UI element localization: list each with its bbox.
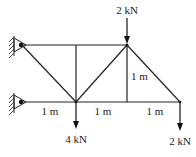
load-arrow-top: 2 kN <box>116 4 138 44</box>
load-label-mid: 4 kN <box>65 133 87 145</box>
truss-members <box>22 44 181 104</box>
dimension-label-2: 1 m <box>95 105 112 117</box>
bottom-pin-support <box>9 93 26 115</box>
load-label-top: 2 kN <box>116 4 138 16</box>
member-diagonal-1 <box>22 45 76 102</box>
truss-diagram: 2 kN 4 kN 2 kN 1 m 1 m 1 m 1 m <box>0 0 196 157</box>
load-label-right: 2 kN <box>169 135 191 147</box>
dimension-label-1: 1 m <box>42 105 59 117</box>
load-arrow-right: 2 kN <box>169 102 191 147</box>
load-arrow-mid: 4 kN <box>65 102 87 145</box>
member-diagonal-2 <box>76 45 127 102</box>
dimension-label-3: 1 m <box>147 105 164 117</box>
dimension-label-vertical: 1 m <box>131 70 148 82</box>
